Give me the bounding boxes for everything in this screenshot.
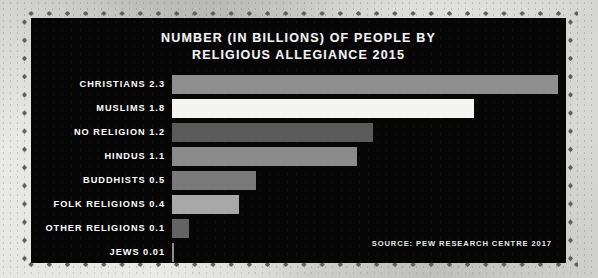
- chart-panel: NUMBER (IN BILLIONS) OF PEOPLE BY RELIGI…: [31, 18, 566, 263]
- bar-no-religion: [172, 123, 373, 142]
- perforation-dots-top: [22, 11, 578, 16]
- bar-row-label: MUSLIMS 1.8: [31, 103, 172, 113]
- bar-row: HINDUS 1.1: [31, 144, 566, 168]
- bar-row-label: FOLK RELIGIONS 0.4: [31, 199, 172, 209]
- bar-track: [172, 144, 566, 168]
- bar-hindus: [172, 147, 357, 166]
- bar-buddhists: [172, 171, 256, 190]
- bar-jews: [172, 243, 174, 262]
- bar-track: [172, 120, 566, 144]
- bar-chart-plot-area: CHRISTIANS 2.3MUSLIMS 1.8NO RELIGION 1.2…: [31, 72, 566, 263]
- bar-row-label: OTHER RELIGIONS 0.1: [31, 223, 172, 233]
- chart-title: NUMBER (IN BILLIONS) OF PEOPLE BY RELIGI…: [31, 30, 566, 64]
- bar-row-label: JEWS 0.01: [31, 247, 172, 257]
- bar-row-label: BUDDHISTS 0.5: [31, 175, 172, 185]
- bar-row: BUDDHISTS 0.5: [31, 168, 566, 192]
- bar-track: [172, 192, 566, 216]
- bar-muslims: [172, 99, 474, 118]
- bar-row-label: HINDUS 1.1: [31, 151, 172, 161]
- perforation-dots-left: [22, 13, 27, 265]
- bar-row: FOLK RELIGIONS 0.4: [31, 192, 566, 216]
- source-credit: SOURCE: PEW RESEARCH CENTRE 2017: [372, 239, 552, 248]
- bar-row-label: NO RELIGION 1.2: [31, 127, 172, 137]
- bar-other-religions: [172, 219, 189, 238]
- poster-canvas: NUMBER (IN BILLIONS) OF PEOPLE BY RELIGI…: [0, 0, 598, 278]
- bar-row: CHRISTIANS 2.3: [31, 72, 566, 96]
- bar-row: NO RELIGION 1.2: [31, 120, 566, 144]
- bar-folk-religions: [172, 195, 239, 214]
- bar-row: MUSLIMS 1.8: [31, 96, 566, 120]
- bar-track: [172, 216, 566, 240]
- perforation-dots-right: [568, 13, 573, 265]
- chart-title-line-2: RELIGIOUS ALLEGIANCE 2015: [31, 47, 566, 64]
- bar-track: [172, 72, 566, 96]
- bar-track: [172, 96, 566, 120]
- bar-row-label: CHRISTIANS 2.3: [31, 79, 172, 89]
- chart-title-line-1: NUMBER (IN BILLIONS) OF PEOPLE BY: [31, 30, 566, 47]
- bar-row: OTHER RELIGIONS 0.1: [31, 216, 566, 240]
- bar-christians: [172, 75, 558, 94]
- bar-track: [172, 168, 566, 192]
